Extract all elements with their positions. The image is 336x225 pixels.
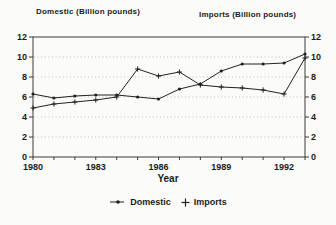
marker-plus-imports-1983	[93, 97, 98, 102]
left-y-tick-label-4: 4	[22, 112, 27, 122]
left-y-tick-label-12: 12	[17, 32, 27, 42]
x-tick-label-1989: 1989	[211, 162, 231, 172]
chart-figure: Domestic (Billion pounds) Imports (Billi…	[0, 0, 336, 225]
marker-dot-domestic-1983	[94, 93, 97, 96]
x-tick-label-1980: 1980	[23, 162, 43, 172]
marker-dot-domestic-1981	[52, 96, 55, 99]
marker-dot-domestic-1991	[262, 62, 265, 65]
imports-plus-marker-icon	[181, 198, 190, 207]
marker-dot-domestic-1992	[282, 61, 285, 64]
marker-dot-domestic-1986	[157, 97, 160, 100]
x-tick-label-1992: 1992	[274, 162, 294, 172]
marker-plus-imports-1993	[302, 55, 307, 60]
left-y-tick-label-10: 10	[17, 52, 27, 62]
series-line-domestic	[33, 54, 305, 99]
left-y-tick-label-8: 8	[22, 72, 27, 82]
legend-item-imports: Imports	[181, 197, 227, 207]
left-y-tick-label-2: 2	[22, 132, 27, 142]
marker-plus-imports-1991	[261, 87, 266, 92]
marker-plus-imports-1986	[156, 73, 161, 78]
marker-plus-imports-1992	[281, 91, 286, 96]
legend-label-domestic: Domestic	[130, 197, 171, 207]
right-y-tick-label-10: 10	[311, 52, 321, 62]
marker-dot-domestic-1993	[303, 52, 306, 55]
legend-label-imports: Imports	[194, 197, 227, 207]
domestic-line-marker-icon	[109, 198, 126, 206]
marker-dot-domestic-1982	[73, 94, 76, 97]
x-axis-label: Year	[0, 173, 336, 184]
legend: Domestic Imports	[0, 197, 336, 207]
marker-dot-domestic-1990	[241, 62, 244, 65]
series-line-imports	[33, 58, 305, 108]
marker-dot-domestic-1989	[220, 69, 223, 72]
right-y-tick-label-12: 12	[311, 32, 321, 42]
left-y-tick-label-0: 0	[22, 152, 27, 162]
marker-plus-imports-1987	[177, 69, 182, 74]
line-chart-plot-area: 00224466881010121219801983198619891992	[0, 18, 336, 173]
left-axis-title: Domestic (Billion pounds)	[36, 7, 140, 16]
marker-plus-imports-1989	[219, 84, 224, 89]
right-y-tick-label-8: 8	[311, 72, 316, 82]
legend-item-domestic: Domestic	[109, 197, 171, 207]
marker-dot-domestic-1985	[136, 95, 139, 98]
right-y-tick-label-4: 4	[311, 112, 316, 122]
marker-dot-domestic-1980	[31, 92, 34, 95]
marker-plus-imports-1981	[51, 101, 56, 106]
marker-plus-imports-1990	[240, 85, 245, 90]
marker-plus-imports-1980	[30, 105, 35, 110]
right-y-tick-label-2: 2	[311, 132, 316, 142]
left-y-tick-label-6: 6	[22, 92, 27, 102]
right-y-tick-label-0: 0	[311, 152, 316, 162]
marker-dot-domestic-1987	[178, 87, 181, 90]
right-y-tick-label-6: 6	[311, 92, 316, 102]
marker-plus-imports-1982	[72, 99, 77, 104]
x-tick-label-1986: 1986	[149, 162, 169, 172]
x-tick-label-1983: 1983	[86, 162, 106, 172]
